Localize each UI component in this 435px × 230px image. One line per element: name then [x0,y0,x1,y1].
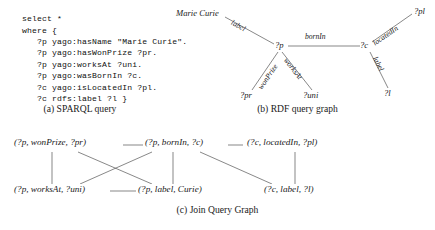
panel-rdf-query-graph: Marie Curie ?p ?c ?pr ?uni ?pl ?l label … [160,0,435,122]
rdf-node-pl: ?pl [414,6,425,16]
rdf-node-pr: ?pr [240,90,252,100]
rdf-node-p: ?p [275,40,284,50]
panel-join-query-graph: (?p, wonPrize, ?pr) (?p, bornIn, ?c) (?c… [0,122,435,230]
panel-sparql-query: select * where { ?p yago:hasName "Marie … [0,0,160,122]
rdf-node-l: ?l [384,88,391,98]
rdf-node-uni: ?uni [303,90,318,100]
caption-panel-a: (a) SPARQL query [0,103,160,114]
join-graph-edges [0,122,435,207]
join-node-wonprize: (?p, wonPrize, ?pr) [12,137,88,147]
join-node-locatedin: (?c, locatedIn, ?pl) [245,137,319,147]
join-node-label-c: (?c, label, ?l) [262,184,316,194]
rdf-node-marie-curie: Marie Curie [176,8,219,18]
join-node-bornin: (?p, bornIn, ?c) [143,137,205,147]
join-node-worksat: (?p, worksAt, ?uni) [12,184,87,194]
rdf-node-c: ?c [360,40,368,50]
rdf-edge-label-bornin: bornIn [305,32,326,41]
join-node-label-p: (?p, label, Curie) [136,184,204,194]
caption-panel-c: (c) Join Query Graph [0,204,435,215]
caption-panel-b: (b) RDF query graph [160,103,435,114]
join-edge-n2-n6 [200,152,272,184]
